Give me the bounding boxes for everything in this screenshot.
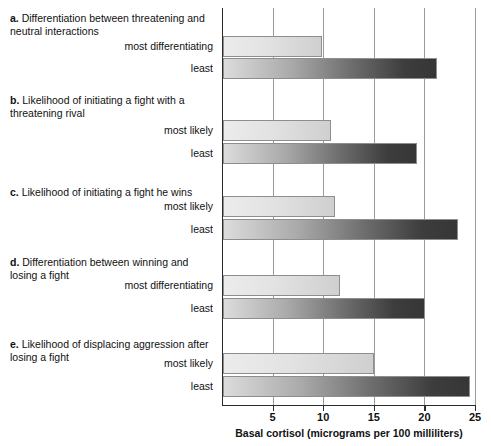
bar-label: least bbox=[13, 380, 213, 392]
bar bbox=[223, 376, 470, 397]
group-letter: c. bbox=[10, 186, 22, 198]
gridline bbox=[475, 8, 476, 406]
x-tick-label: 20 bbox=[418, 411, 430, 423]
bar bbox=[223, 120, 331, 141]
bar bbox=[223, 196, 335, 217]
bar-label: most differentiating bbox=[13, 40, 213, 52]
x-tick-label: 10 bbox=[317, 411, 329, 423]
bar-label: most likely bbox=[13, 200, 213, 212]
group-title: d. Differentiation between winning and l… bbox=[10, 256, 215, 281]
bar-label: least bbox=[13, 147, 213, 159]
group-title-text: Differentiation between threatening and … bbox=[10, 12, 205, 37]
x-tick-label: 15 bbox=[368, 411, 380, 423]
bar bbox=[223, 36, 322, 57]
bar bbox=[223, 58, 437, 79]
bar-label: most likely bbox=[13, 124, 213, 136]
x-tick-label: 25 bbox=[469, 411, 481, 423]
group-letter: b. bbox=[10, 94, 22, 106]
group-title-text: Differentiation between winning and losi… bbox=[10, 256, 188, 281]
bar-label: least bbox=[13, 62, 213, 74]
x-axis-line bbox=[222, 405, 476, 406]
bar bbox=[223, 143, 417, 164]
group-title: b. Likelihood of initiating a fight with… bbox=[10, 94, 215, 119]
bar-label: least bbox=[13, 223, 213, 235]
cortisol-bar-chart: 510152025 a. Differentiation between thr… bbox=[0, 0, 491, 446]
bar-label: least bbox=[13, 302, 213, 314]
bar-label: most differentiating bbox=[13, 279, 213, 291]
group-title: c. Likelihood of initiating a fight he w… bbox=[10, 186, 215, 199]
group-letter: d. bbox=[10, 256, 22, 268]
x-tick-label: 5 bbox=[270, 411, 276, 423]
bar bbox=[223, 298, 425, 319]
group-title-text: Likelihood of initiating a fight with a … bbox=[10, 94, 185, 119]
bar bbox=[223, 219, 458, 240]
group-letter: e. bbox=[10, 338, 22, 350]
bar bbox=[223, 353, 374, 374]
bar bbox=[223, 275, 340, 296]
group-letter: a. bbox=[10, 12, 22, 24]
bar-label: most likely bbox=[13, 357, 213, 369]
group-title-text: Likelihood of initiating a fight he wins bbox=[22, 186, 192, 198]
group-title: a. Differentiation between threatening a… bbox=[10, 12, 215, 37]
x-axis-title: Basal cortisol (micrograms per 100 milli… bbox=[222, 427, 476, 439]
